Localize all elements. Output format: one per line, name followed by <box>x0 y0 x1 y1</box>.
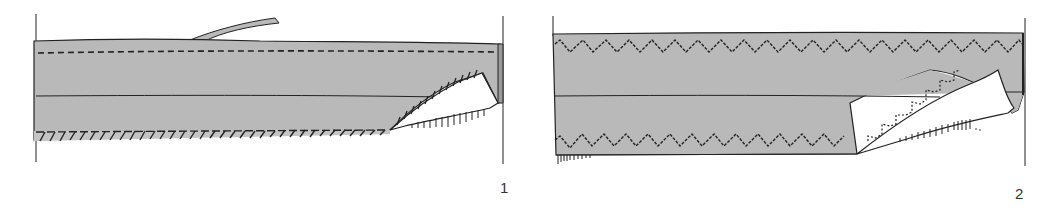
fabric-tab <box>190 18 279 42</box>
fringe-dots <box>975 128 981 131</box>
figure-2-label: 2 <box>1015 186 1023 201</box>
raw-edge-hatching-left <box>558 155 590 164</box>
figure-1-label: 1 <box>500 180 508 195</box>
figure-1: 1 <box>0 0 525 216</box>
figure-2: 2 <box>530 0 1053 216</box>
figure-1-drawing <box>0 0 525 216</box>
figure-2-drawing <box>530 0 1053 216</box>
fabric-right-edge <box>498 44 503 103</box>
fabric-body <box>34 39 502 140</box>
